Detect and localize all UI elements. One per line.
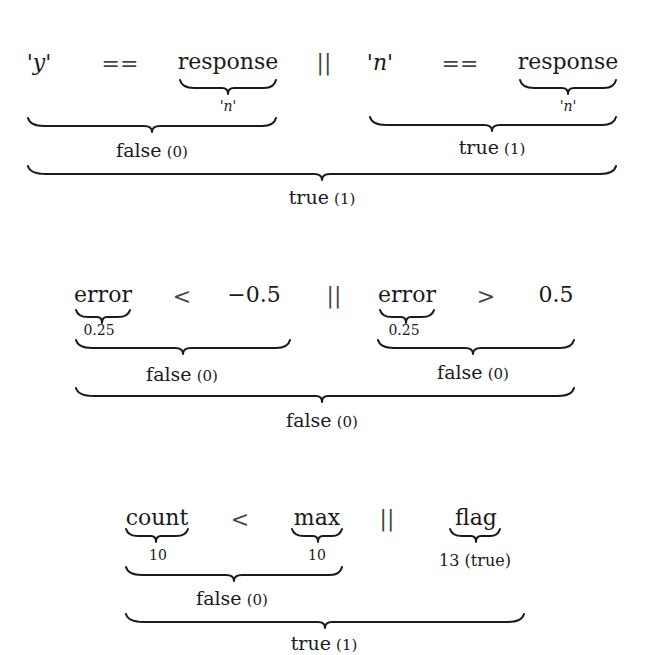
underbrace-count [126, 529, 188, 542]
token-variable-flag: flag [455, 507, 497, 529]
token-equals-operator: == [442, 53, 479, 75]
underbrace-left-comparison-3 [126, 567, 342, 581]
underbrace-flag [450, 529, 500, 542]
token-variable-error: error [378, 284, 436, 306]
token-less-than-operator: < [173, 286, 191, 308]
underbrace-right-comparison-1 [370, 117, 616, 131]
token-or-operator: || [327, 285, 342, 307]
underbrace-response-right [520, 80, 616, 94]
value-annotation: 'n' [560, 99, 577, 113]
result-right-2: false (0) [437, 363, 509, 382]
value-annotation: 'n' [220, 99, 237, 113]
token-equals-operator: == [102, 53, 139, 75]
result-overall-1: true (1) [289, 188, 356, 207]
value-annotation: 10 [149, 548, 167, 562]
underbrace-max [292, 529, 342, 542]
token-number: 0.5 [539, 284, 574, 306]
token-number: −0.5 [227, 284, 280, 306]
token-or-operator: || [317, 52, 332, 74]
result-overall-3: true (1) [291, 634, 358, 653]
underbrace-response-left [180, 80, 276, 94]
token-variable-error: error [74, 284, 132, 306]
token-less-than-operator: < [231, 509, 249, 531]
underbrace-right-comparison-2 [378, 340, 574, 354]
value-annotation: 10 [308, 548, 326, 562]
token-literal-n: 'n' [367, 52, 393, 74]
underbrace-overall-3 [126, 614, 524, 628]
token-literal-y: 'y' [27, 52, 52, 74]
token-variable-response: response [178, 51, 279, 73]
token-greater-than-operator: > [477, 286, 495, 308]
underbrace-overall-1 [28, 166, 616, 180]
token-variable-count: count [126, 507, 189, 529]
result-left-3: false (0) [196, 589, 268, 608]
result-left-2: false (0) [146, 365, 218, 384]
value-annotation: 0.25 [83, 323, 114, 337]
token-variable-max: max [294, 507, 340, 529]
underbrace-left-comparison-1 [28, 118, 276, 132]
underbrace-left-comparison-2 [76, 340, 290, 354]
value-annotation: 13 (true) [439, 553, 511, 569]
result-right-1: true (1) [459, 138, 526, 157]
underbrace-overall-2 [76, 388, 574, 402]
result-overall-2: false (0) [286, 411, 358, 430]
token-or-operator: || [380, 508, 395, 530]
token-variable-response: response [518, 51, 619, 73]
result-left-1: false (0) [116, 141, 188, 160]
value-annotation: 0.25 [388, 323, 419, 337]
